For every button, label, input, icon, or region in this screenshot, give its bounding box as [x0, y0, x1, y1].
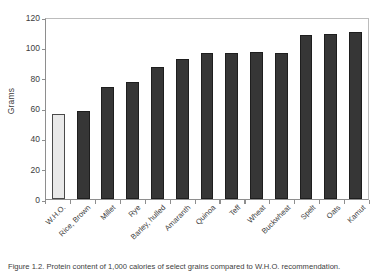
chart-figure: Grams 020406080100120 W.H.O.Rice, BrownM… [0, 0, 380, 271]
x-axis-label-millet: Millet [99, 203, 118, 222]
bar-slot [346, 19, 366, 199]
bar-slot [222, 19, 242, 199]
bar-w-h-o [52, 114, 65, 199]
bar-slot [246, 19, 266, 199]
y-tick-label: 120 [26, 13, 40, 23]
x-axis-label-wheat: Wheat [245, 203, 267, 225]
bar-slot [197, 19, 217, 199]
bar-millet [101, 87, 114, 199]
bar-slot [172, 19, 192, 199]
x-axis-label-rye: Rye [127, 203, 143, 219]
y-tick-mark [42, 110, 46, 111]
y-tick-mark [42, 140, 46, 141]
bar-slot [296, 19, 316, 199]
bar-spelt [300, 35, 313, 199]
bar-rye [126, 82, 139, 199]
bar-kamut [349, 32, 362, 199]
bar-slot [147, 19, 167, 199]
y-tick-label: 60 [31, 104, 40, 114]
bar-slot [48, 19, 68, 199]
y-tick-mark [42, 170, 46, 171]
x-axis-label-teff: Teff [227, 203, 242, 218]
bar-slot [271, 19, 291, 199]
bar-amaranth [176, 59, 189, 199]
x-axis-label-quinoa: Quinoa [194, 203, 218, 227]
y-tick-label: 20 [31, 165, 40, 175]
y-tick-mark [42, 19, 46, 20]
bar-slot [321, 19, 341, 199]
bar-slot [73, 19, 93, 199]
bar-buckwheat [275, 53, 288, 199]
bar-slot [98, 19, 118, 199]
x-axis-label-kamut: Kamut [345, 203, 367, 225]
figure-caption: Figure 1.2. Protein content of 1,000 cal… [8, 262, 380, 271]
bar-wheat [250, 52, 263, 199]
bar-quinoa [201, 53, 214, 199]
y-tick-mark [42, 49, 46, 50]
plot-area: 020406080100120 [45, 18, 369, 200]
x-axis-label-group: W.H.O.Rice, BrownMilletRyeBarley, hulled… [45, 203, 369, 263]
y-axis-title: Grams [6, 71, 16, 131]
bar-rice-brown [77, 111, 90, 199]
bar-group [46, 19, 368, 199]
y-tick-label: 100 [26, 43, 40, 53]
y-tick-label: 80 [31, 74, 40, 84]
bar-teff [225, 53, 238, 199]
bar-slot [123, 19, 143, 199]
y-tick-label: 40 [31, 134, 40, 144]
y-tick-label: 0 [35, 195, 40, 205]
x-axis-label-spelt: Spelt [298, 203, 317, 222]
x-axis-label-oats: Oats [324, 203, 342, 221]
x-axis-label-amaranth: Amaranth [163, 203, 193, 233]
bar-barley-hulled [151, 67, 164, 199]
y-tick-mark [42, 79, 46, 80]
bar-oats [324, 34, 337, 199]
x-tick-mark [369, 200, 370, 204]
